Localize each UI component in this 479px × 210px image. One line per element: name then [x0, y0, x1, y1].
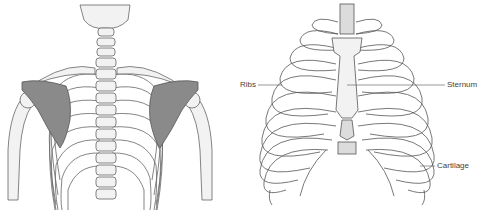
sternum-label: Sternum [447, 80, 477, 89]
ribs-right [356, 19, 434, 193]
xiphoid-process [340, 120, 354, 140]
lumbar-vertebra [338, 142, 356, 154]
sternum [332, 38, 362, 118]
cartilage-label: Cartilage [437, 161, 469, 170]
spine [96, 28, 116, 199]
right-scapula [150, 81, 199, 148]
left-scapula [22, 81, 71, 148]
ribs-label: Ribs [240, 80, 256, 89]
right-costal-margin [368, 150, 394, 196]
left-humerus [8, 95, 32, 200]
ribs-left [260, 19, 338, 193]
posterior-skeleton-figure [0, 0, 220, 210]
skull-base [80, 5, 130, 28]
ribcage-illustration [220, 0, 479, 210]
right-humerus [188, 95, 212, 200]
posterior-skeleton-illustration [0, 0, 220, 210]
left-costal-margin [300, 150, 326, 196]
vertebrae-top [340, 4, 354, 34]
right-clavicle [117, 67, 177, 85]
ribcage-figure: Ribs Sternum Cartilage [220, 0, 479, 210]
